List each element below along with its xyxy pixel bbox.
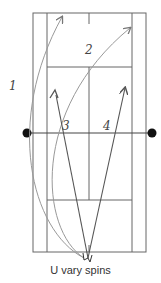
- shot-label-3: 3: [62, 119, 70, 133]
- shot-label-4: 4: [102, 119, 111, 133]
- shot-label-2: 2: [84, 43, 93, 57]
- shot-label-1: 1: [9, 79, 17, 93]
- shot-arc-2: [52, 28, 130, 258]
- shot-arrow-3: [56, 95, 88, 258]
- tennis-court-diagram: 1 2 3 4: [0, 0, 161, 283]
- shot-arrow-4: [88, 88, 125, 258]
- net-post-right: [148, 129, 157, 138]
- shot-arc-1: [30, 17, 84, 258]
- diagram-caption: U vary spins: [0, 264, 161, 276]
